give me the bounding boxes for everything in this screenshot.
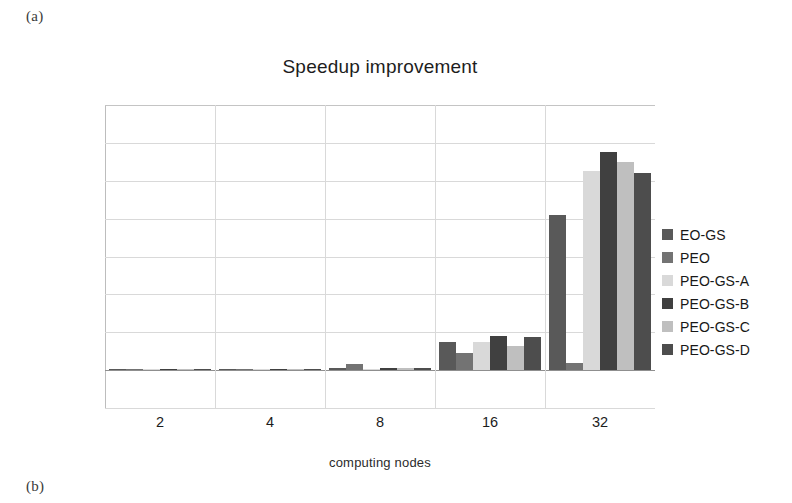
bar [177, 369, 194, 370]
legend-swatch-icon [662, 298, 673, 309]
bar [524, 337, 541, 370]
bar [634, 173, 651, 370]
bar [346, 364, 363, 370]
bar [160, 369, 177, 370]
bar [600, 152, 617, 370]
bar [507, 346, 524, 370]
legend-swatch-icon [662, 321, 673, 332]
bar [126, 369, 143, 370]
legend-label: PEO [680, 250, 710, 266]
bars [215, 105, 325, 370]
bar [439, 342, 456, 370]
legend-item[interactable]: PEO-GS-C [662, 315, 750, 338]
bar [109, 369, 126, 370]
bar [380, 368, 397, 370]
bar-group [435, 105, 545, 408]
legend-item[interactable]: EO-GS [662, 223, 750, 246]
bar [566, 363, 583, 371]
bar [549, 215, 566, 370]
legend-item[interactable]: PEO-GS-B [662, 292, 750, 315]
plot-area: 14,00%12,00%10,00%8,00%6,00%4,00%2,00%0,… [105, 105, 655, 408]
x-axis-tick-label: 8 [325, 414, 435, 430]
bar [473, 342, 490, 370]
x-axis-tick-label: 4 [215, 414, 325, 430]
x-axis-tick-label: 32 [545, 414, 655, 430]
bar [236, 369, 253, 370]
bars [435, 105, 545, 370]
x-axis-title: computing nodes [105, 455, 655, 470]
bar-group [105, 105, 215, 408]
figure-panel-b-label: (b) [26, 478, 44, 495]
bar [304, 369, 321, 370]
bar [583, 171, 600, 370]
bar [287, 369, 304, 370]
bar [414, 368, 431, 370]
speedup-improvement-chart: Speedup improvement 14,00%12,00%10,00%8,… [0, 40, 792, 470]
legend-swatch-icon [662, 252, 673, 263]
legend-swatch-icon [662, 275, 673, 286]
legend-label: PEO-GS-D [680, 342, 750, 358]
bars [545, 105, 655, 370]
legend-label: PEO-GS-C [680, 319, 750, 335]
bar [363, 369, 380, 371]
legend-swatch-icon [662, 229, 673, 240]
bar [143, 369, 160, 370]
bar-group [325, 105, 435, 408]
chart-legend: EO-GSPEOPEO-GS-APEO-GS-BPEO-GS-CPEO-GS-D [662, 223, 750, 361]
legend-item[interactable]: PEO [662, 246, 750, 269]
bars [105, 105, 215, 370]
bar-group [215, 105, 325, 408]
bar [219, 369, 236, 370]
bar [194, 369, 211, 370]
bar-group [545, 105, 655, 408]
bar [253, 369, 270, 370]
bar [490, 336, 507, 370]
figure-panel-a-label: (a) [26, 8, 44, 25]
legend-label: PEO-GS-A [680, 273, 749, 289]
legend-label: PEO-GS-B [680, 296, 749, 312]
bar [617, 162, 634, 370]
x-axis-tick-label: 2 [105, 414, 215, 430]
bar [397, 368, 414, 370]
bar [270, 369, 287, 370]
gridline [105, 408, 655, 409]
legend-item[interactable]: PEO-GS-D [662, 338, 750, 361]
bars [325, 105, 435, 370]
bar [329, 368, 346, 370]
chart-title: Speedup improvement [105, 56, 655, 78]
legend-item[interactable]: PEO-GS-A [662, 269, 750, 292]
legend-swatch-icon [662, 344, 673, 355]
legend-label: EO-GS [680, 227, 726, 243]
bar [456, 353, 473, 370]
x-axis-tick-label: 16 [435, 414, 545, 430]
